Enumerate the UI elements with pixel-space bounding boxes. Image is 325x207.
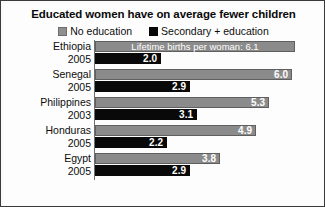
bar-group-egypt: Egypt 2005 3.8 2.9 <box>4 152 323 180</box>
legend-item-secondary-education: Secondary + education <box>149 25 269 37</box>
legend-item-no-education: No education <box>58 25 132 37</box>
category-name: Philippines <box>4 96 91 109</box>
bar-group-philippines: Philippines 2003 5.3 3.1 <box>4 96 323 124</box>
category-name: Ethiopia <box>4 40 91 53</box>
chart-container: Educated women have on average fewer chi… <box>0 0 325 207</box>
category-label-philippines: Philippines 2003 <box>4 96 91 121</box>
category-name: Senegal <box>4 68 91 81</box>
bar-value-label: 2.0 <box>143 54 157 64</box>
legend-label-no-education: No education <box>70 25 132 37</box>
bar-value-label: 6.0 <box>274 70 288 80</box>
category-name: Honduras <box>4 124 91 137</box>
bar-group-senegal: Senegal 2005 6.0 2.9 <box>4 68 323 96</box>
category-label-egypt: Egypt 2005 <box>4 152 91 177</box>
bar-honduras-secondary-education: 2.2 <box>95 137 167 148</box>
bar-philippines-secondary-education: 3.1 <box>95 109 197 120</box>
legend-label-secondary-education: Secondary + education <box>161 25 269 37</box>
legend-swatch-icon-no-education <box>58 27 67 36</box>
bar-track-philippines: 5.3 3.1 <box>94 96 321 124</box>
bar-honduras-no-education: 4.9 <box>95 125 256 136</box>
bar-value-label: 3.8 <box>202 154 216 164</box>
chart-legend: No education Secondary + education <box>4 25 323 37</box>
category-year: 2005 <box>4 165 91 178</box>
bar-annotation-lifetime-births: Lifetime births per woman: 6.1 <box>99 42 291 52</box>
bar-value-label: 5.3 <box>251 98 265 108</box>
bar-value-label: 2.9 <box>172 82 186 92</box>
bar-track-honduras: 4.9 2.2 <box>94 124 321 152</box>
chart-plot-area: Ethiopia 2005 Lifetime births per woman:… <box>4 40 323 202</box>
bar-group-ethiopia: Ethiopia 2005 Lifetime births per woman:… <box>4 40 323 68</box>
category-year: 2003 <box>4 109 91 122</box>
bar-ethiopia-no-education: Lifetime births per woman: 6.1 6.1 <box>95 41 295 52</box>
category-label-ethiopia: Ethiopia 2005 <box>4 40 91 65</box>
bar-track-senegal: 6.0 2.9 <box>94 68 321 96</box>
category-year: 2005 <box>4 53 91 66</box>
bar-track-ethiopia: Lifetime births per woman: 6.1 6.1 2.0 <box>94 40 321 68</box>
category-year: 2005 <box>4 137 91 150</box>
bar-value-label: 3.1 <box>179 110 193 120</box>
bar-philippines-no-education: 5.3 <box>95 97 269 108</box>
category-label-honduras: Honduras 2005 <box>4 124 91 149</box>
bar-value-label: 2.9 <box>172 166 186 176</box>
category-name: Egypt <box>4 152 91 165</box>
legend-swatch-icon-secondary-education <box>149 27 158 36</box>
category-year: 2005 <box>4 81 91 94</box>
bar-senegal-no-education: 6.0 <box>95 69 292 80</box>
chart-inner-panel: Educated women have on average fewer chi… <box>4 4 323 205</box>
bar-egypt-secondary-education: 2.9 <box>95 165 190 176</box>
category-label-senegal: Senegal 2005 <box>4 68 91 93</box>
chart-title: Educated women have on average fewer chi… <box>4 8 323 20</box>
bar-track-egypt: 3.8 2.9 <box>94 152 321 180</box>
bar-egypt-no-education: 3.8 <box>95 153 220 164</box>
bar-senegal-secondary-education: 2.9 <box>95 81 190 92</box>
bar-value-label: 2.2 <box>149 138 163 148</box>
bar-value-label: 4.9 <box>238 126 252 136</box>
bar-ethiopia-secondary-education: 2.0 <box>95 53 161 64</box>
bar-group-honduras: Honduras 2005 4.9 2.2 <box>4 124 323 152</box>
